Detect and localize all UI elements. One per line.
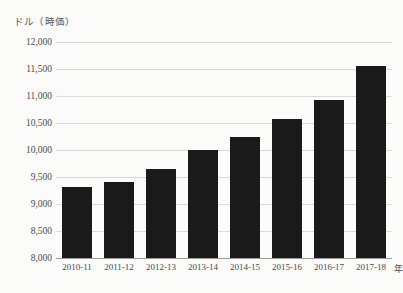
- y-axis-tick-label: 8,000: [31, 253, 52, 263]
- bar-slot: [266, 42, 308, 258]
- bar-slot: [224, 42, 266, 258]
- bar: [146, 169, 176, 258]
- bar: [188, 150, 218, 258]
- bar-slot: [98, 42, 140, 258]
- y-axis-tick-label: 12,000: [26, 37, 52, 47]
- bar: [314, 100, 344, 258]
- y-axis-unit-label: ドル（時価）: [14, 14, 75, 28]
- x-axis-tick-labels: 2010-112011-122012-132013-142014-152015-…: [56, 262, 392, 272]
- y-axis-tick-label: 8,500: [31, 226, 52, 236]
- y-axis-tick-label: 10,500: [26, 118, 52, 128]
- bar-slot: [308, 42, 350, 258]
- plot-area: [56, 42, 392, 258]
- x-axis-tick-label: 2016-17: [308, 262, 350, 272]
- x-axis-tick-label: 2012-13: [140, 262, 182, 272]
- bar-slot: [56, 42, 98, 258]
- x-axis-tick-label: 2014-15: [224, 262, 266, 272]
- y-axis-tick-label: 10,000: [26, 145, 52, 155]
- x-axis-tick-label: 2013-14: [182, 262, 224, 272]
- x-axis-tick-label: 2015-16: [266, 262, 308, 272]
- bar: [104, 182, 134, 258]
- y-axis-tick-label: 11,000: [26, 91, 52, 101]
- bar-slot: [140, 42, 182, 258]
- bar: [62, 187, 92, 258]
- x-axis-tick-label: 2010-11: [56, 262, 98, 272]
- bar-slot: [182, 42, 224, 258]
- x-axis-tick-label: 2017-18: [350, 262, 392, 272]
- y-axis-tick-label: 11,500: [26, 64, 52, 74]
- bar-slot: [350, 42, 392, 258]
- x-axis-tick-label: 2011-12: [98, 262, 140, 272]
- bar-series: [56, 42, 392, 258]
- bar: [356, 66, 386, 258]
- axis-baseline: [56, 258, 392, 259]
- y-axis-tick-labels: 12,00011,50011,00010,50010,0009,5009,000…: [0, 42, 52, 258]
- x-axis-unit-label: 年: [394, 262, 403, 275]
- bar: [230, 137, 260, 259]
- bar: [272, 119, 302, 258]
- y-axis-tick-label: 9,000: [31, 199, 52, 209]
- y-axis-tick-label: 9,500: [31, 172, 52, 182]
